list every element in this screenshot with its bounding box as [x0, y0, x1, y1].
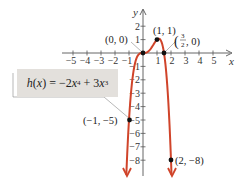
label-2: (2, −8) — [175, 155, 204, 167]
fn-name: h — [27, 76, 33, 91]
x-tick-label: 5 — [212, 55, 217, 66]
x-tick-labels: −5−4−3−2−112345 — [66, 55, 217, 66]
y-tick-label: −7 — [129, 141, 140, 152]
fn-coef1: −2 — [59, 76, 72, 91]
point-root — [162, 51, 167, 56]
x-tick-label: 4 — [198, 55, 203, 66]
label-neg1: (−1, −5) — [83, 115, 118, 127]
fn-exp2: 3 — [105, 79, 109, 87]
label-root-close: , 0) — [186, 36, 201, 48]
label-root-den: 2 — [181, 41, 185, 49]
x-tick-label: −5 — [66, 55, 77, 66]
x-tick-label: 2 — [170, 55, 175, 66]
label-root-open: ( — [174, 34, 179, 50]
x-tick-label: 3 — [184, 55, 189, 66]
x-axis-label: x — [228, 55, 234, 67]
point-2 — [169, 158, 174, 163]
point-max — [155, 37, 160, 42]
x-tick-label: −2 — [108, 55, 119, 66]
y-tick-label: 2 — [135, 21, 140, 32]
label-root-num: 3 — [181, 32, 185, 40]
x-tick-label: −4 — [80, 55, 91, 66]
point-origin — [141, 51, 146, 56]
x-tick-label: −3 — [94, 55, 105, 66]
y-tick-label: −6 — [129, 128, 140, 139]
label-origin: (0, 0) — [105, 34, 128, 46]
y-axis — [140, 9, 146, 176]
fn-var: x — [37, 76, 42, 91]
fn-exp1: 4 — [77, 79, 81, 87]
y-tick-label: 1 — [135, 34, 140, 45]
x-tick-label: 1 — [156, 55, 161, 66]
function-label: h(x) = −2x4 + 3x3 — [17, 69, 118, 97]
point-neg1 — [127, 118, 132, 123]
y-tick-label: −8 — [129, 155, 140, 166]
y-axis-label: y — [132, 6, 138, 18]
label-max: (1, 1) — [153, 25, 176, 37]
